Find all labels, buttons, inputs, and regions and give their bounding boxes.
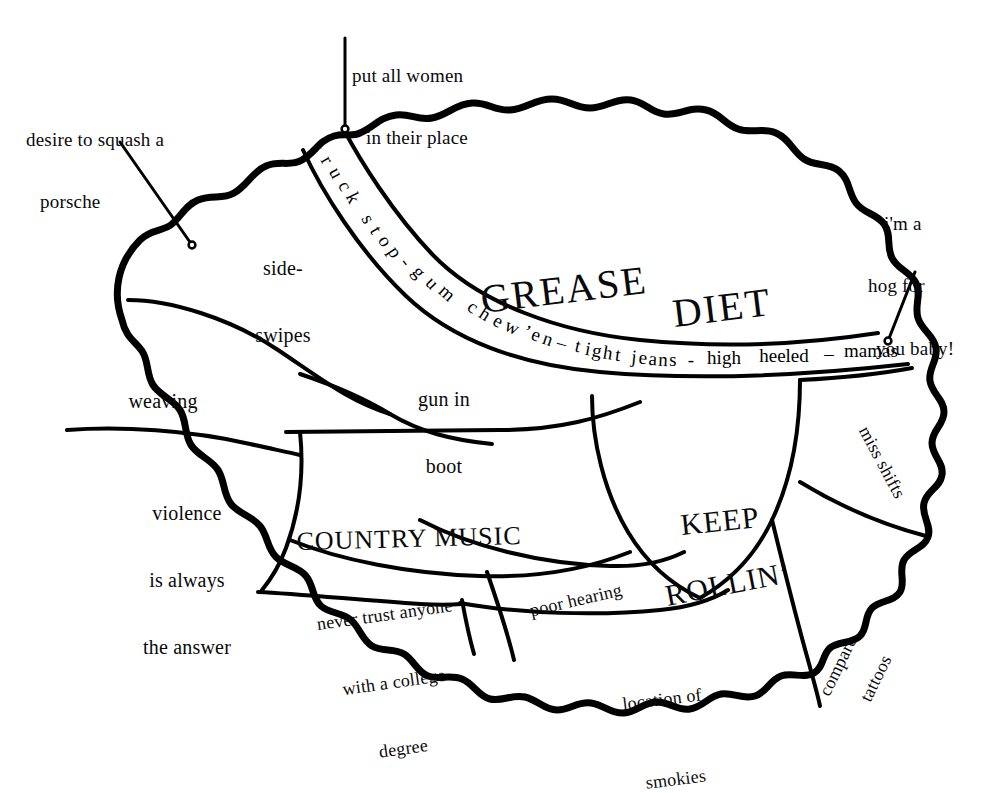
band-glyph: a	[648, 348, 658, 371]
band-glyph: h	[602, 341, 615, 364]
band-glyph: s	[669, 349, 677, 371]
band-glyph: n	[658, 349, 669, 371]
band-glyph: t	[614, 344, 622, 367]
band-glyph: –	[554, 331, 569, 355]
band-glyph: –	[824, 343, 834, 365]
band-glyph: n	[540, 327, 556, 351]
band-glyph: j	[630, 346, 638, 368]
band-glyph: e	[638, 347, 648, 370]
band-glyph: high	[707, 347, 741, 369]
band-glyph: t	[573, 335, 583, 358]
band-glyph: u	[324, 164, 348, 183]
band-glyph: heeled	[759, 345, 809, 367]
band-glyph: -	[395, 253, 416, 271]
band-glyph: -	[688, 349, 694, 371]
band-glyph: s	[357, 211, 380, 228]
band-glyph: r	[316, 152, 338, 168]
band-glyph: mamas	[844, 340, 898, 362]
band-glyph: k	[341, 189, 365, 207]
band-glyph: t	[307, 140, 328, 156]
